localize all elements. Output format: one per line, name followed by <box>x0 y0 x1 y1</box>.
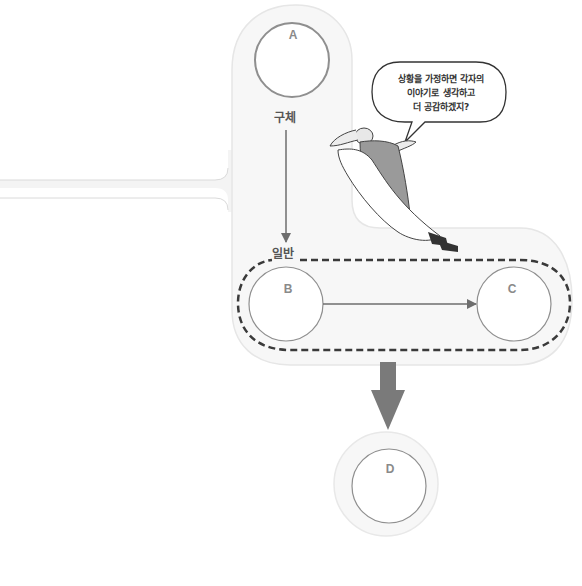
node-d <box>334 432 438 536</box>
node-b <box>249 267 323 341</box>
speech-bubble-text: 상황을 가정하면 각자의 이야기로 생각하고 더 공감하겠지? <box>386 72 496 114</box>
node-d-label: D <box>380 462 400 476</box>
speech-line: 상황을 가정하면 각자의 <box>386 72 496 86</box>
speech-line: 더 공감하겠지? <box>386 100 496 114</box>
big-down-arrow <box>371 362 405 430</box>
general-label: 일반 <box>272 244 294 261</box>
node-b-label: B <box>278 282 298 296</box>
speech-line: 이야기로 생각하고 <box>386 86 496 100</box>
node-a-label: A <box>283 28 303 42</box>
diagram-canvas: A B C D 구체 일반 상황을 가정하면 각자의 이야기로 생각하고 더 공… <box>0 0 582 586</box>
node-c-label: C <box>502 282 522 296</box>
concrete-label: 구체 <box>274 108 296 125</box>
left-connector-bar <box>0 150 232 212</box>
node-c <box>477 267 551 341</box>
